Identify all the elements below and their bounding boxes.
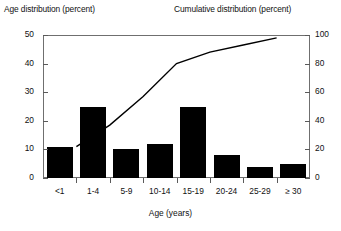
left-axis-tick-label: 40 bbox=[25, 59, 34, 68]
x-axis-tick bbox=[210, 178, 211, 183]
right-axis-tick-label: 20 bbox=[315, 144, 324, 153]
right-axis-tick-label: 60 bbox=[315, 87, 324, 96]
x-axis-label: ≥ 30 bbox=[277, 186, 310, 196]
right-axis-tick bbox=[305, 149, 310, 150]
cumulative-polyline bbox=[76, 38, 276, 147]
x-axis-tick bbox=[143, 178, 144, 183]
chart-figure: Age distribution (percent) Cumulative di… bbox=[0, 0, 341, 231]
cumulative-line-series bbox=[43, 35, 310, 178]
x-axis-label: <1 bbox=[43, 186, 76, 196]
x-axis-label: 20-24 bbox=[210, 186, 243, 196]
left-axis-tick bbox=[43, 35, 48, 36]
right-axis-tick-label: 100 bbox=[315, 30, 329, 39]
right-axis-tick bbox=[305, 64, 310, 65]
right-axis-tick-label: 80 bbox=[315, 59, 324, 68]
left-axis-tick bbox=[43, 149, 48, 150]
left-axis-tick-label: 0 bbox=[29, 173, 34, 182]
x-axis-label: 5-9 bbox=[110, 186, 143, 196]
left-axis-tick bbox=[43, 64, 48, 65]
right-axis-tick bbox=[305, 35, 310, 36]
right-axis-tick bbox=[305, 92, 310, 93]
right-axis-tick bbox=[305, 178, 310, 179]
left-axis-tick-label: 20 bbox=[25, 116, 34, 125]
left-axis-tick bbox=[43, 92, 48, 93]
right-axis-tick bbox=[305, 121, 310, 122]
left-axis-tick-label: 50 bbox=[25, 30, 34, 39]
left-axis-tick-label: 10 bbox=[25, 144, 34, 153]
left-axis-tick bbox=[43, 178, 48, 179]
right-axis-tick-label: 40 bbox=[315, 116, 324, 125]
x-axis-title: Age (years) bbox=[0, 208, 341, 218]
x-axis-label: 25-29 bbox=[243, 186, 276, 196]
x-axis-tick bbox=[277, 178, 278, 183]
right-axis-tick-label: 0 bbox=[315, 173, 320, 182]
left-axis-title: Age distribution (percent) bbox=[4, 4, 95, 14]
x-axis-label: 10-14 bbox=[143, 186, 176, 196]
x-axis-label: 1-4 bbox=[76, 186, 109, 196]
x-axis-tick bbox=[76, 178, 77, 183]
x-axis-label: 15-19 bbox=[177, 186, 210, 196]
left-axis-tick-label: 30 bbox=[25, 87, 34, 96]
x-axis-tick bbox=[110, 178, 111, 183]
right-axis-title: Cumulative distribution (percent) bbox=[174, 4, 291, 14]
left-axis-tick bbox=[43, 121, 48, 122]
x-axis-tick bbox=[243, 178, 244, 183]
x-axis-tick bbox=[177, 178, 178, 183]
